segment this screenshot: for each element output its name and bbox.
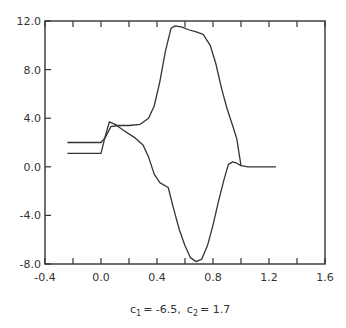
x-tick-label: -0.4 — [34, 271, 55, 284]
x-tick-label: 0.0 — [92, 271, 110, 284]
x-tick-label: 0.4 — [148, 271, 166, 284]
y-tick-label: -8.0 — [20, 258, 41, 271]
chart-caption: c1= -6.5,c2= 1.7 — [130, 303, 230, 318]
x-tick-label: 0.8 — [204, 271, 222, 284]
y-tick-label: 12.0 — [17, 15, 42, 28]
y-tick-label: -4.0 — [20, 209, 41, 222]
y-axis-labels: -8.0-4.00.04.08.012.0 — [17, 15, 42, 271]
x-axis-labels: -0.40.00.40.81.21.6 — [34, 271, 333, 284]
x-tick-label: 1.2 — [260, 271, 278, 284]
upper-curve — [67, 26, 276, 167]
y-tick-label: 8.0 — [24, 64, 42, 77]
x-tick-label: 1.6 — [316, 271, 334, 284]
y-tick-label: 0.0 — [24, 161, 42, 174]
chart: -0.40.00.40.81.21.6 -8.0-4.00.04.08.012.… — [0, 0, 346, 328]
y-tick-label: 4.0 — [24, 112, 42, 125]
data-series — [67, 26, 276, 262]
